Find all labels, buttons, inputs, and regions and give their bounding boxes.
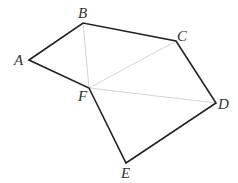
geometry-diagram: A B C D E F [0, 0, 238, 183]
label-E: E [120, 165, 130, 181]
label-C: C [177, 28, 188, 44]
label-F: F [77, 88, 88, 104]
segment-FC [89, 41, 176, 88]
segment-BF [83, 23, 89, 88]
label-D: D [217, 96, 229, 112]
hexagon-ABCDEF [29, 23, 216, 163]
label-A: A [13, 52, 24, 68]
label-B: B [78, 5, 87, 21]
auxiliary-lines [83, 23, 216, 103]
segment-FD [89, 88, 216, 103]
